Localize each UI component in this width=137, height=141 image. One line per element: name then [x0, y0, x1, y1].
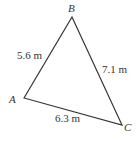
vertex-label-c: C — [124, 121, 132, 133]
side-label-ac: 6.3 m — [55, 112, 81, 124]
vertex-label-b: B — [68, 2, 75, 14]
side-label-ab: 5.6 m — [17, 49, 43, 61]
triangle-diagram: B A C 5.6 m 7.1 m 6.3 m — [0, 0, 137, 141]
side-label-bc: 7.1 m — [102, 63, 128, 75]
vertex-label-a: A — [8, 93, 16, 105]
